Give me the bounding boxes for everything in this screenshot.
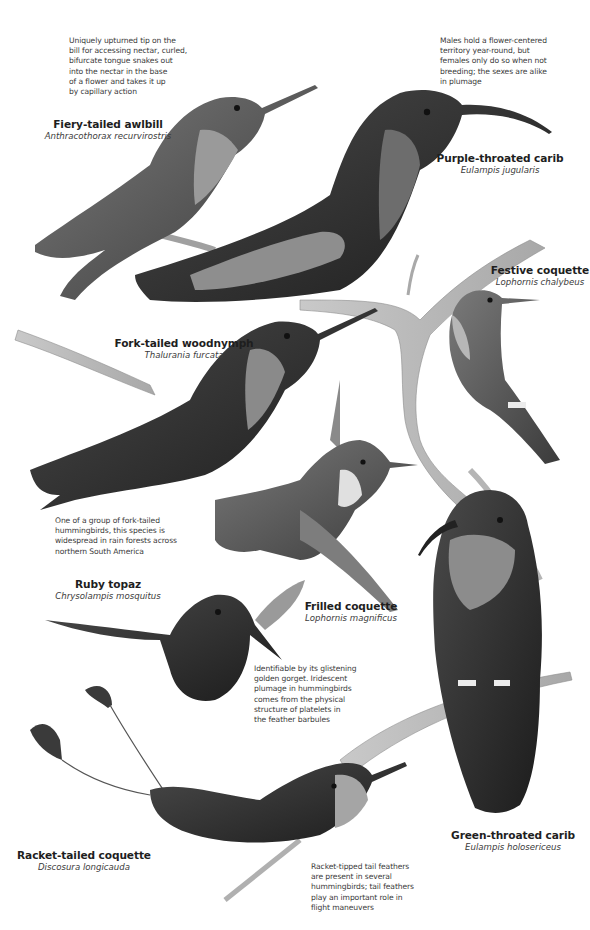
scientific-name: Anthracothorax recurvirostris [28, 131, 188, 141]
bird-festive-coquette [449, 290, 560, 464]
common-name: Racket-tailed coquette [14, 849, 154, 861]
common-name: Green-throated carib [443, 829, 583, 841]
awlbill-perch [160, 235, 215, 250]
common-name: Fiery-tailed awlbill [28, 118, 188, 130]
common-name: Festive coquette [490, 264, 590, 276]
scientific-name: Lophornis chalybeus [490, 277, 590, 287]
caption-woodnymph-note: One of a group of fork-tailed hummingbir… [55, 516, 177, 557]
caption-ruby-topaz-note: Identifiable by its glistening golden go… [254, 664, 356, 725]
label-racket-tailed-coquette: Racket-tailed coquette Discosura longica… [14, 849, 154, 872]
common-name: Fork-tailed woodnymph [104, 337, 264, 349]
caption-purple-carib-note: Males hold a flower-centered territory y… [440, 36, 547, 87]
label-festive-coquette: Festive coquette Lophornis chalybeus [490, 264, 590, 287]
scientific-name: Chrysolampis mosquitus [38, 591, 178, 601]
label-fiery-tailed-awlbill: Fiery-tailed awlbill Anthracothorax recu… [28, 118, 188, 141]
label-green-throated-carib: Green-throated carib Eulampis holoserice… [443, 829, 583, 852]
label-purple-throated-carib: Purple-throated carib Eulampis jugularis [430, 152, 570, 175]
label-frilled-coquette: Frilled coquette Lophornis magnificus [296, 600, 406, 623]
scientific-name: Discosura longicauda [14, 862, 154, 872]
scientific-name: Thalurania furcata [104, 350, 264, 360]
common-name: Ruby topaz [38, 578, 178, 590]
label-fork-tailed-woodnymph: Fork-tailed woodnymph Thalurania furcata [104, 337, 264, 360]
label-ruby-topaz: Ruby topaz Chrysolampis mosquitus [38, 578, 178, 601]
caption-awlbill-note: Uniquely upturned tip on the bill for ac… [69, 36, 187, 97]
scientific-name: Lophornis magnificus [296, 613, 406, 623]
common-name: Purple-throated carib [430, 152, 570, 164]
scientific-name: Eulampis jugularis [430, 165, 570, 175]
caption-racket-note: Racket-tipped tail feathers are present … [311, 862, 414, 913]
common-name: Frilled coquette [296, 600, 406, 612]
scientific-name: Eulampis holosericeus [443, 842, 583, 852]
bird-green-throated-carib [418, 490, 542, 813]
